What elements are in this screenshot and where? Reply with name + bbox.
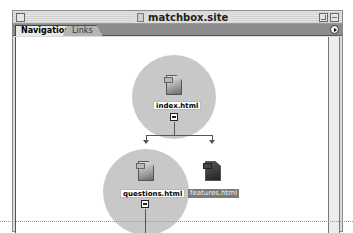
html-file-icon-selected[interactable] — [203, 159, 221, 181]
site-map-canvas[interactable]: index.html questions.html features.html — [15, 37, 328, 232]
zoom-box-button[interactable] — [319, 13, 328, 22]
connector-line — [174, 122, 175, 136]
title-bar[interactable]: matchbox.site — [13, 11, 342, 24]
site-window: matchbox.site Navigation Links index.htm… — [12, 10, 343, 232]
html-file-icon[interactable] — [136, 159, 154, 181]
html-file-icon[interactable] — [164, 73, 182, 95]
tab-links[interactable]: Links — [63, 25, 103, 36]
arrow-down-icon — [143, 140, 149, 144]
close-box-button[interactable] — [16, 13, 25, 22]
window-collapse-button[interactable] — [330, 13, 339, 22]
bottom-divider — [0, 221, 353, 222]
window-title-group: matchbox.site — [133, 11, 232, 23]
arrow-down-icon — [209, 140, 215, 144]
vertical-scrollbar[interactable] — [328, 37, 340, 232]
collapse-toggle-questions[interactable] — [141, 200, 149, 208]
connector-line — [146, 135, 212, 136]
tab-menu-arrow-icon[interactable] — [330, 25, 339, 34]
node-label-questions[interactable]: questions.html — [120, 189, 185, 198]
window-title: matchbox.site — [148, 12, 228, 23]
node-label-features[interactable]: features.html — [188, 189, 239, 198]
collapse-toggle-index[interactable] — [170, 113, 178, 121]
node-label-index[interactable]: index.html — [153, 101, 201, 110]
site-file-icon — [137, 13, 144, 22]
tab-bar: Navigation Links — [13, 24, 342, 36]
